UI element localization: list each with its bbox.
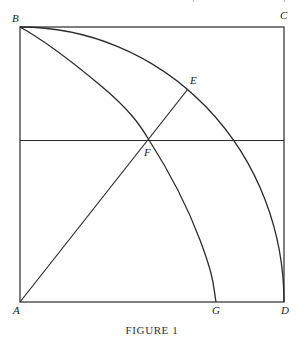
label-g: G	[212, 304, 220, 316]
label-b: B	[12, 12, 19, 24]
label-e: E	[189, 74, 197, 86]
cropped-text-fragments	[193, 0, 285, 2]
label-a: A	[12, 304, 20, 316]
label-f: F	[143, 146, 151, 158]
segment-ae	[20, 89, 188, 302]
arc-bed	[20, 27, 284, 302]
figure-caption: FIGURE 1	[126, 324, 179, 336]
square-abcd	[20, 27, 284, 302]
figure-1-diagram: B C E F A G D FIGURE 1	[0, 0, 305, 347]
label-c: C	[280, 9, 288, 21]
label-d: D	[280, 304, 289, 316]
quadratrix-bfg	[20, 27, 216, 302]
